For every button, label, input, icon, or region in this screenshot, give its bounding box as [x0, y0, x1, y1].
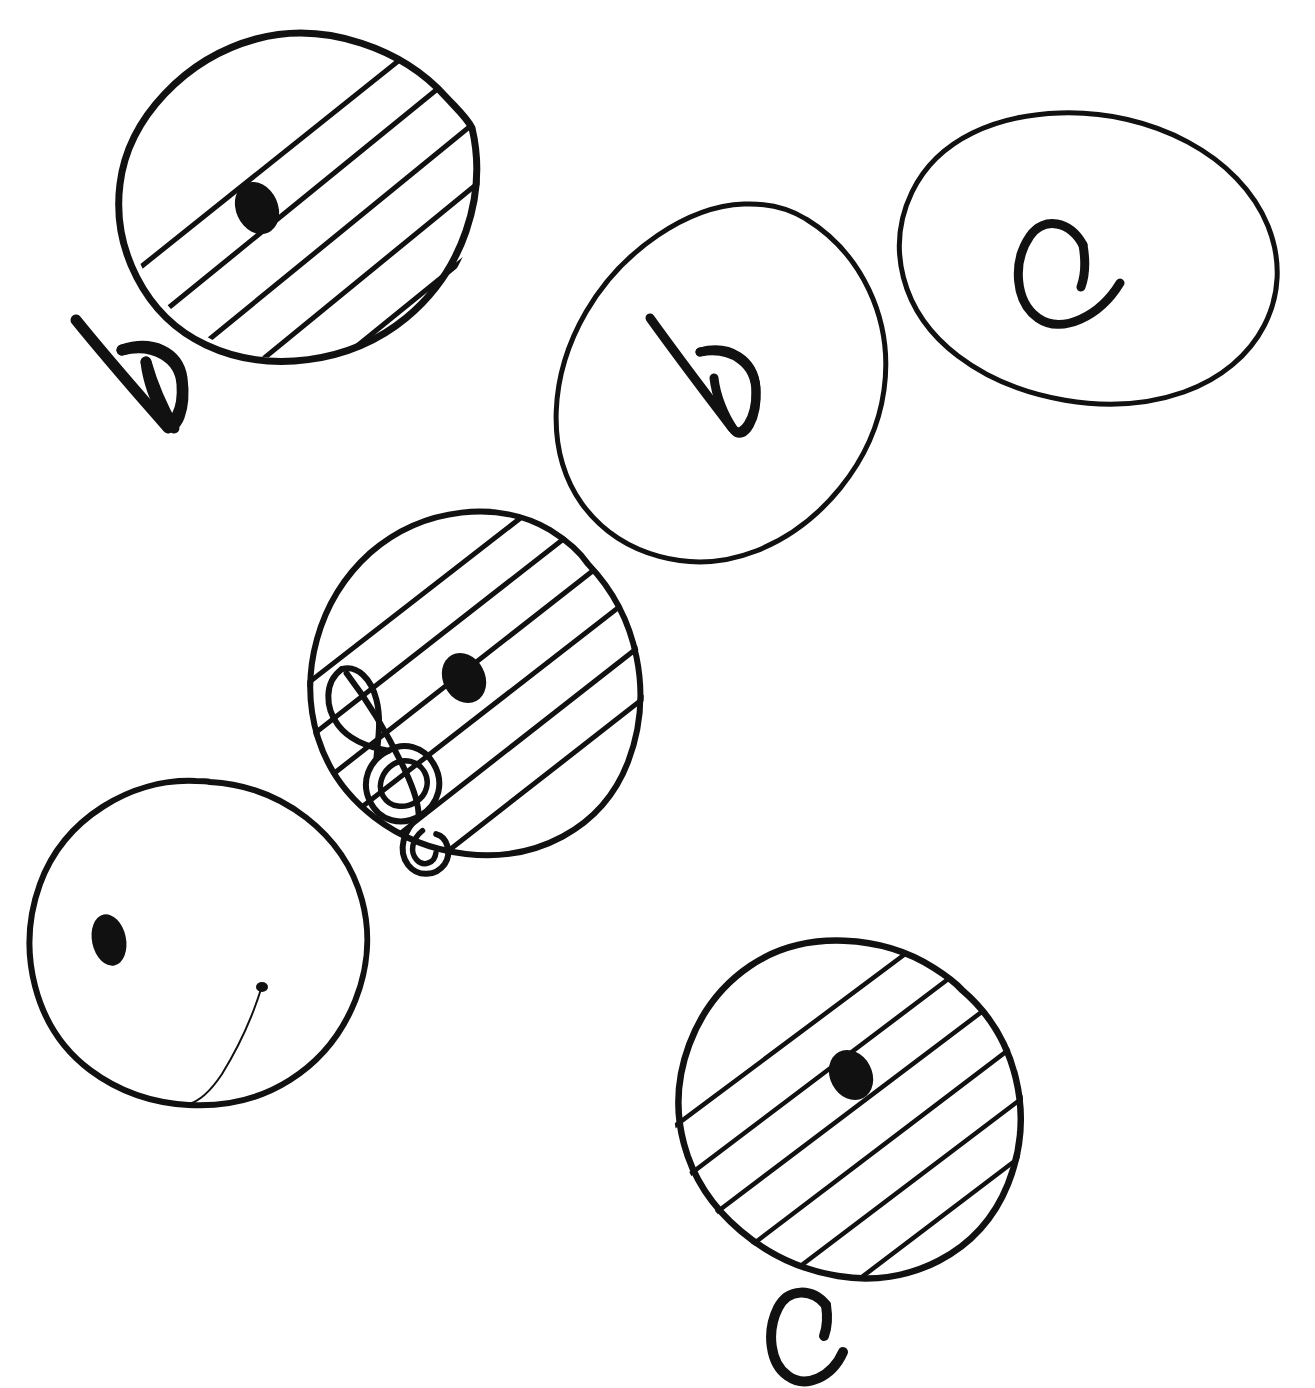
- handwritten-b-label-top-left: [76, 320, 183, 428]
- handwritten-c-label-bottom: [771, 1293, 843, 1382]
- letter-b-inside: [650, 318, 756, 433]
- top-middle-b-circle: [556, 204, 886, 562]
- bottom-right-staff-circle: [616, 916, 1074, 1368]
- note-head-top-left: [227, 175, 287, 241]
- drawing-canvas: b c b c Hand-drawn musical staff circles: [0, 0, 1315, 1388]
- top-right-c-circle: [899, 113, 1277, 404]
- smile-start-dot: [256, 982, 268, 992]
- smile-stroke-left-face: [188, 989, 261, 1104]
- left-smiley-face-circle: [30, 781, 368, 1105]
- hand-drawn-scene: [0, 0, 1315, 1388]
- ellipse-outline-top-middle: [556, 204, 886, 562]
- ellipse-outline-left-face: [30, 781, 368, 1105]
- ellipse-outline-top-left: [119, 33, 477, 361]
- note-head-bottom-right: [820, 1042, 881, 1108]
- letter-c-inside: [1018, 224, 1120, 325]
- eye-dot-left-face: [87, 911, 131, 969]
- top-left-staff-circle: [62, 33, 566, 534]
